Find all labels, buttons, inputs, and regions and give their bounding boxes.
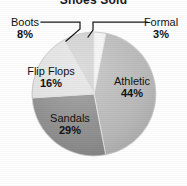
slice-label-formal: Formal 3% xyxy=(136,17,186,41)
chart-title: Shoes Sold xyxy=(0,0,187,7)
slice-label-formal-value: 3% xyxy=(136,29,186,41)
slice-label-sandals: Sandals 29% xyxy=(42,113,98,137)
slice-label-flip-flops: Flip Flops 16% xyxy=(20,66,82,90)
slice-label-sandals-value: 29% xyxy=(42,125,98,137)
pie-chart-figure: Shoes Sold xyxy=(0,0,187,186)
slice-label-boots-value: 8% xyxy=(2,29,48,41)
slice-label-athletic: Athletic 44% xyxy=(104,76,160,100)
slice-label-boots: Boots 8% xyxy=(2,17,48,41)
slice-label-athletic-value: 44% xyxy=(104,88,160,100)
slice-label-flip-flops-value: 16% xyxy=(20,78,82,90)
